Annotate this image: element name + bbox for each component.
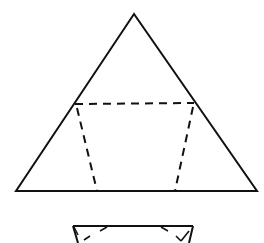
dashed-left-edge — [77, 108, 97, 191]
fold-mark-right-tick-top — [161, 227, 168, 231]
fold-mark-right-v1 — [176, 236, 181, 241]
fold-mark-left-tick-bottom — [84, 236, 90, 240]
fold-diagram — [0, 0, 264, 243]
dashed-right-edge — [175, 107, 193, 191]
folded-right-edge — [189, 226, 193, 243]
fold-mark-right-v2 — [181, 231, 189, 241]
folded-shape-partial — [73, 226, 193, 243]
fold-mark-left-tick-top — [100, 227, 107, 231]
dashed-top-edge — [75, 103, 194, 104]
